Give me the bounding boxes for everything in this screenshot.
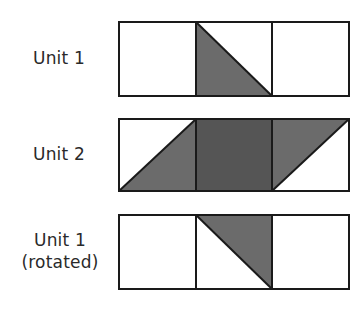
unit-1-rotated-label-line-1: Unit 1 [12,229,108,251]
unit-2-label: Unit 2 [18,143,100,165]
unit-1-rotated-cell-1 [119,215,196,289]
unit-2-block [117,117,351,194]
unit-1-rotated-label: Unit 1 (rotated) [12,229,108,273]
unit-1-rotated-block [117,213,351,291]
unit-1-block [117,20,351,98]
unit-2-label-line: Unit 2 [18,143,100,165]
unit-1-cell-3 [272,22,349,96]
unit-1-label-line: Unit 1 [18,47,100,69]
unit-2-center-square [196,119,272,191]
unit-1-label: Unit 1 [18,47,100,69]
unit-1-rotated-cell-3 [272,215,349,289]
unit-1-cell-1 [119,22,196,96]
unit-1-rotated-label-line-2: (rotated) [12,251,108,273]
